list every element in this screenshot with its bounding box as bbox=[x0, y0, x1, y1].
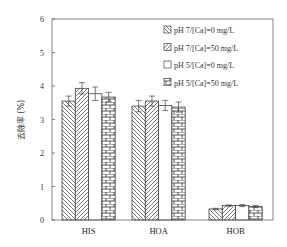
bar bbox=[209, 209, 222, 220]
bar bbox=[102, 97, 115, 220]
legend-item: pH 5/[Ca]=0 mg/L bbox=[164, 61, 234, 70]
bar bbox=[222, 206, 235, 220]
bar-chart: 去除率 (%) 0123456 HISHOAHOB pH 7/[Ca]=0 mg… bbox=[0, 0, 287, 247]
bar bbox=[89, 94, 102, 220]
bars-group bbox=[62, 83, 262, 220]
category-label: HOB bbox=[227, 226, 245, 236]
bar bbox=[249, 207, 262, 220]
legend-item: pH 5/[Ca]=50 mg/L bbox=[164, 79, 238, 88]
legend-swatch-icon bbox=[164, 26, 171, 33]
bar-group-his bbox=[62, 83, 115, 220]
legend-item: pH 7/[Ca]=50 mg/L bbox=[164, 44, 238, 53]
y-axis-label: 去除率 (%) bbox=[16, 100, 26, 140]
legend-label: pH 7/[Ca]=0 mg/L bbox=[174, 26, 234, 35]
bar bbox=[236, 206, 249, 220]
legend-swatch-icon bbox=[164, 61, 171, 68]
legend-label: pH 7/[Ca]=50 mg/L bbox=[174, 44, 238, 53]
category-label: HIS bbox=[82, 226, 96, 236]
y-tick-label: 4 bbox=[40, 82, 44, 91]
bar bbox=[132, 106, 145, 220]
y-tick-label: 3 bbox=[40, 116, 44, 125]
category-label: HOA bbox=[149, 226, 168, 236]
legend-swatch-icon bbox=[164, 79, 171, 86]
bar-group-hoa bbox=[132, 96, 185, 220]
y-axis: 0123456 bbox=[40, 15, 55, 225]
legend-item: pH 7/[Ca]=0 mg/L bbox=[164, 26, 234, 35]
bar bbox=[145, 101, 158, 220]
bar bbox=[62, 101, 75, 220]
y-tick-label: 5 bbox=[40, 49, 44, 58]
y-tick-label: 2 bbox=[40, 149, 44, 158]
legend-swatch-icon bbox=[164, 44, 171, 51]
legend-label: pH 5/[Ca]=50 mg/L bbox=[174, 79, 238, 88]
bar bbox=[75, 88, 88, 220]
bar bbox=[172, 107, 185, 220]
y-tick-label: 6 bbox=[40, 15, 44, 24]
legend: pH 7/[Ca]=0 mg/LpH 7/[Ca]=50 mg/LpH 5/[C… bbox=[164, 26, 238, 88]
y-tick-label: 0 bbox=[40, 216, 44, 225]
y-tick-label: 1 bbox=[40, 183, 44, 192]
legend-label: pH 5/[Ca]=0 mg/L bbox=[174, 61, 234, 70]
bar bbox=[159, 105, 172, 220]
